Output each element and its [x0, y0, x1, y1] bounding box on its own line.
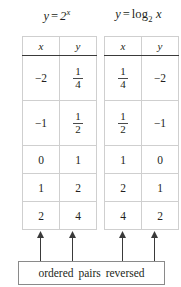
cell-x: 1 4 [105, 56, 142, 101]
fraction: 1 4 [118, 66, 128, 90]
table-header-row: x y [105, 37, 179, 56]
cell-y: 1 [142, 174, 179, 202]
cell-x: 1 [105, 146, 142, 174]
cell-x: −2 [23, 56, 60, 101]
table-row: 1 2 −1 [105, 101, 179, 146]
fraction-numerator: 1 [73, 66, 83, 77]
caption-text: ordered pairs reversed [38, 267, 144, 279]
left-title-equals: = [49, 9, 60, 23]
right-title-equals: = [121, 7, 132, 21]
fraction: 1 2 [73, 111, 83, 135]
right-table-title: y=log2 x [102, 7, 175, 24]
left-table-title: y=2x [22, 7, 92, 24]
fraction: 1 4 [73, 66, 83, 90]
table-row: 1 4 −2 [105, 56, 179, 101]
table-row: 0 1 [23, 146, 97, 174]
cell-x: 2 [105, 174, 142, 202]
cell-y: 1 4 [60, 56, 97, 101]
cell-y: −1 [142, 101, 179, 146]
cell-y: 4 [60, 202, 97, 230]
arrow-up-icon-right-x [118, 231, 127, 265]
table-exponential: x y −2 1 4 −1 1 2 [22, 36, 97, 230]
table-row: 4 2 [105, 202, 179, 230]
right-header-y: y [142, 37, 179, 56]
inverse-function-tables-figure: y=2x y=log2 x x y −2 1 4 −1 [0, 0, 181, 287]
left-title-exponent: x [66, 7, 70, 17]
table-row: 1 0 [105, 146, 179, 174]
cell-y: 0 [142, 146, 179, 174]
right-title-function: log [132, 7, 149, 21]
cell-x: 1 2 [105, 101, 142, 146]
table-row: 1 2 [23, 174, 97, 202]
cell-y: 1 [60, 146, 97, 174]
right-title-base: 2 [148, 14, 152, 24]
fraction: 1 2 [118, 111, 128, 135]
left-header-x: x [23, 37, 60, 56]
fraction-denominator: 2 [118, 123, 128, 135]
table-row: −1 1 2 [23, 101, 97, 146]
right-header-x: x [105, 37, 142, 56]
table-row: −2 1 4 [23, 56, 97, 101]
table-header-row: x y [23, 37, 97, 56]
cell-y: 2 [60, 174, 97, 202]
cell-x: 4 [105, 202, 142, 230]
cell-y: −2 [142, 56, 179, 101]
cell-x: −1 [23, 101, 60, 146]
table-row: 2 1 [105, 174, 179, 202]
fraction-denominator: 4 [73, 78, 83, 90]
fraction-denominator: 4 [118, 78, 128, 90]
fraction-numerator: 1 [118, 111, 128, 122]
cell-x: 0 [23, 146, 60, 174]
fraction-denominator: 2 [73, 123, 83, 135]
table-row: 2 4 [23, 202, 97, 230]
fraction-numerator: 1 [73, 111, 83, 122]
fraction-numerator: 1 [118, 66, 128, 77]
cell-x: 2 [23, 202, 60, 230]
cell-y: 2 [142, 202, 179, 230]
caption-box: ordered pairs reversed [18, 261, 165, 285]
cell-x: 1 [23, 174, 60, 202]
arrow-up-icon-left-y [68, 231, 77, 265]
table-logarithmic: x y 1 4 −2 1 2 [104, 36, 179, 230]
right-title-argument: x [156, 7, 162, 21]
arrow-up-icon-left-x [36, 231, 45, 265]
arrow-up-icon-right-y [150, 231, 159, 265]
cell-y: 1 2 [60, 101, 97, 146]
left-header-y: y [60, 37, 97, 56]
